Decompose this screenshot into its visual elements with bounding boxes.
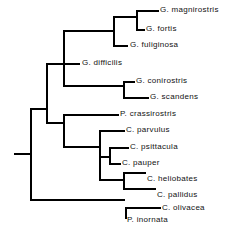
taxon-label-g_conirostris: G. conirostris	[136, 77, 187, 85]
branch-v-root	[30, 108, 32, 199]
branch-v-magni-fortis	[136, 10, 138, 29]
branch-h-root-stem	[14, 153, 30, 155]
taxon-label-g_magnirostris: G. magnirostris	[160, 6, 219, 14]
branch-h-geospiza-stem	[46, 63, 63, 65]
cladogram-figure: G. magnirostrisG. fortisG. fuliginosaG. …	[0, 0, 244, 225]
branch-h-certhid-stem	[46, 122, 63, 124]
taxon-label-c_olivacea: C. olivacea	[162, 204, 205, 212]
branch-v-camar-lower	[99, 156, 101, 179]
branch-v-helio-pall	[123, 172, 125, 188]
taxon-label-p_crassirostris: P. crassirostris	[120, 110, 176, 118]
branch-h-g-fortis	[136, 29, 145, 31]
branch-h-g-fuliginosa	[113, 45, 128, 47]
branch-h-c-heliobates	[123, 172, 146, 174]
branch-h-helio-node	[99, 179, 123, 181]
taxon-label-c_psittacula: C. psittacula	[130, 143, 178, 151]
branch-h-parv-node	[99, 130, 125, 132]
branch-h-p-crassirostris	[63, 114, 119, 116]
branch-h-root-upper	[30, 108, 46, 110]
branch-v-psitt-pauper	[109, 147, 111, 163]
branch-h-geo-lower	[63, 85, 123, 87]
branch-h-psitt-pauper-stem	[99, 156, 109, 158]
branch-h-camar-stem	[63, 146, 99, 148]
branch-h-c-olivacea	[125, 207, 161, 209]
taxon-label-c_pallidus: C. pallidus	[157, 191, 198, 199]
branch-v-camar-upper	[99, 130, 101, 156]
branch-h-g-magnirostris	[136, 10, 159, 12]
taxon-label-g_fortis: G. fortis	[146, 25, 177, 33]
branch-h-c-pauper	[109, 163, 121, 165]
branch-v-fulig	[113, 16, 115, 45]
branch-v-coni-scan	[123, 81, 125, 97]
taxon-label-c_parvulus: C. parvulus	[126, 126, 170, 134]
taxon-label-c_heliobates: C. heliobates	[147, 175, 198, 183]
taxon-label-g_difficilis: G. difficilis	[82, 59, 122, 67]
taxon-label-g_fuliginosa: G. fuliginosa	[130, 41, 178, 49]
branch-h-g-difficilis	[63, 63, 80, 65]
taxon-label-p_inornata: P. inornata	[127, 216, 168, 224]
branch-v-node2	[46, 63, 48, 122]
taxon-label-c_pauper: C. pauper	[122, 159, 160, 167]
branch-v-clade-cert	[63, 114, 65, 146]
branch-v-geospiza	[63, 30, 65, 85]
branch-h-root-lower	[30, 199, 125, 201]
branch-h-g-conirostris	[123, 81, 135, 83]
branch-h-c-psittacula	[109, 147, 129, 149]
branch-h-c-pallidus	[123, 188, 156, 190]
branch-h-fulig-node	[113, 16, 136, 18]
branch-h-geo-upper	[63, 30, 113, 32]
branch-h-g-scandens	[123, 97, 149, 99]
taxon-label-g_scandens: G. scandens	[150, 93, 198, 101]
